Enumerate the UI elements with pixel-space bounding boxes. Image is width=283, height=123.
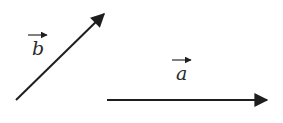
vector-a-label: a [176,62,187,84]
vector-b: b [16,14,104,100]
vector-b-shaft [16,14,104,100]
vector-a: a [107,60,267,100]
vector-diagram: b a [0,0,283,123]
vector-b-label: b [32,37,44,59]
